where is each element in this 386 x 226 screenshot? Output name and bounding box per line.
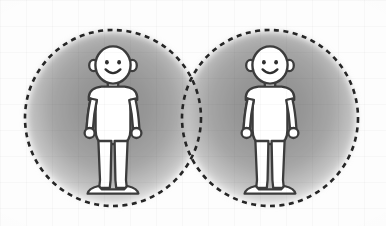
illustration-canvas (0, 0, 386, 226)
circle-fill-group (27, 32, 356, 204)
scene-layer (0, 0, 386, 226)
scene-svg (0, 0, 386, 226)
